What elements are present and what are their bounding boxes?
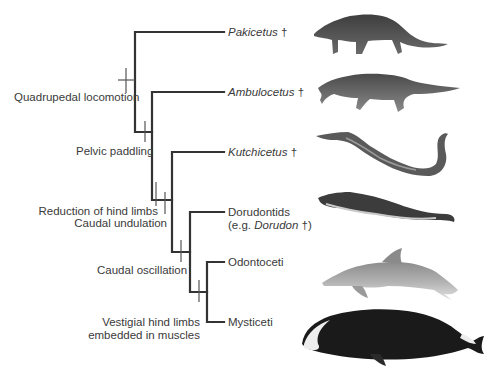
whale-cladogram: Quadrupedal locomotion Pelvic paddling R… xyxy=(0,0,498,377)
bowhead-whale-illustration xyxy=(302,309,484,366)
dolphin-illustration xyxy=(322,248,458,300)
dorudon-illustration xyxy=(318,192,455,222)
kutchicetus-illustration xyxy=(316,132,448,176)
ambulocetus-illustration xyxy=(318,74,460,112)
illustrations xyxy=(0,0,498,377)
pakicetus-illustration xyxy=(314,14,448,54)
